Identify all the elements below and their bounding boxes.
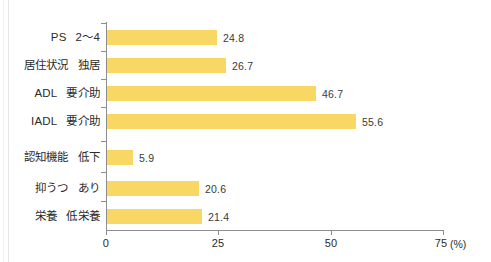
category-label: PS2～4 — [0, 30, 100, 45]
horizontal-bar-chart: PS2～4 居住状況独居 ADL要介助 IADL要介助 認知機能低下 抑うつあり… — [0, 0, 491, 262]
y-axis-tick — [101, 107, 106, 108]
y-axis-tick — [101, 172, 106, 173]
y-axis-tick — [101, 51, 106, 52]
bar-value-label: 21.4 — [208, 209, 229, 224]
category-label-group: 抑うつ — [35, 182, 69, 194]
category-label-condition: 2～4 — [76, 31, 100, 43]
y-axis-tick — [101, 201, 106, 202]
category-label-condition: 要介助 — [66, 115, 100, 127]
bar — [106, 58, 226, 73]
category-label: ADL要介助 — [0, 86, 100, 101]
bar-value-label: 20.6 — [205, 181, 226, 196]
bar-value-label: 46.7 — [322, 86, 343, 101]
category-label: 居住状況独居 — [0, 58, 100, 73]
category-label: IADL要介助 — [0, 114, 100, 129]
bar — [106, 209, 202, 224]
bar — [106, 114, 356, 129]
y-axis-tick — [101, 23, 106, 24]
category-label-condition: 低下 — [78, 151, 100, 163]
category-label-group: PS — [51, 31, 67, 43]
y-axis-tick — [101, 141, 106, 142]
bar-value-label: 5.9 — [139, 150, 154, 165]
category-label-group: 栄養 — [35, 210, 57, 222]
category-label-group: 居住状況 — [24, 59, 69, 71]
bar — [106, 86, 316, 101]
category-label: 認知機能低下 — [0, 150, 100, 165]
bar-value-label: 55.6 — [362, 114, 383, 129]
category-label: 栄養低栄養 — [0, 209, 100, 224]
x-axis-tick-label: 0 — [103, 237, 109, 249]
x-axis-unit-label: (%) — [450, 238, 466, 250]
category-label-group: 認知機能 — [24, 151, 69, 163]
bar-value-label: 24.8 — [223, 30, 244, 45]
x-axis-tick — [443, 230, 444, 235]
bar — [106, 181, 199, 196]
x-axis-tick-label: 75 — [435, 237, 448, 249]
category-label-group: IADL — [31, 115, 57, 127]
bar — [106, 150, 133, 165]
category-label-condition: 要介助 — [66, 87, 100, 99]
x-axis-tick — [218, 230, 219, 235]
category-label-condition: あり — [78, 182, 100, 194]
x-axis-tick — [106, 230, 107, 235]
x-axis-line — [106, 230, 444, 231]
category-label: 抑うつあり — [0, 181, 100, 196]
bar — [106, 30, 217, 45]
x-axis-tick-label: 50 — [325, 237, 338, 249]
category-label-condition: 低栄養 — [66, 210, 100, 222]
category-label-group: ADL — [34, 87, 57, 99]
x-axis-tick-label: 25 — [212, 237, 225, 249]
y-axis-line — [106, 22, 107, 230]
x-axis-tick — [331, 230, 332, 235]
bar-value-label: 26.7 — [232, 58, 253, 73]
category-label-condition: 独居 — [78, 59, 100, 71]
y-axis-tick — [101, 79, 106, 80]
